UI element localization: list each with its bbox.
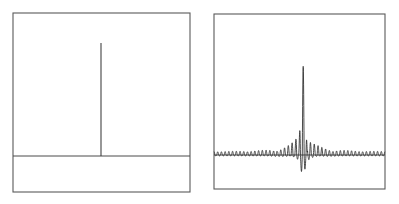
figure-container — [0, 0, 399, 204]
waveform-axes-frame — [214, 14, 385, 189]
waveform-panel — [0, 0, 399, 204]
waveform-plot-area — [0, 0, 399, 204]
waveform-wave-packet — [214, 66, 385, 171]
